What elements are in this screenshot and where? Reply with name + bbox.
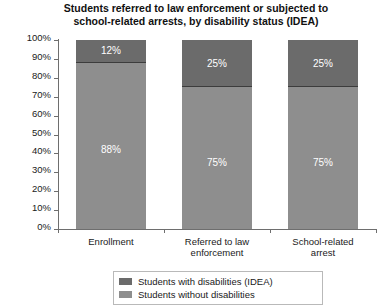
chart-title: Students referred to law enforcement or … (0, 2, 392, 28)
bar-segment-without-disabilities[interactable]: 88% (76, 63, 146, 229)
y-axis-tick-label: 50% (32, 128, 51, 138)
y-axis-tick-label: 60% (32, 109, 51, 119)
x-axis-category-label: School-relatedarrest (271, 236, 375, 258)
x-axis-line (58, 229, 376, 230)
x-axis-category-label-line: School-related (271, 236, 375, 247)
bar-stack[interactable]: 25%75% (182, 40, 252, 229)
x-axis-tick-mark (270, 229, 271, 233)
bar-segment-with-disabilities[interactable]: 25% (288, 40, 358, 87)
x-axis-tick-mark (376, 229, 377, 233)
x-axis-category-label-line: arrest (271, 247, 375, 258)
legend-item-label: Students with disabilities (IDEA) (138, 276, 273, 287)
chart-legend: Students with disabilities (IDEA)Student… (113, 271, 323, 305)
y-axis-tick-label: 100% (27, 33, 51, 43)
bar-segment-with-disabilities[interactable]: 25% (182, 40, 252, 87)
legend-item[interactable]: Students without disabilities (119, 288, 317, 301)
x-axis-category-label: Enrollment (59, 236, 163, 247)
y-axis-tick-label: 80% (32, 71, 51, 81)
bar-value-label: 75% (313, 157, 333, 168)
legend-color-swatch (119, 291, 132, 298)
legend-color-swatch (119, 278, 132, 285)
x-axis-category-label: Referred to lawenforcement (165, 236, 269, 258)
plot-area: 12%88%25%75%25%75% (58, 40, 376, 229)
y-axis-tick-label: 0% (37, 222, 51, 232)
x-axis-category-label-line: Referred to law (165, 236, 269, 247)
bar-stack[interactable]: 12%88% (76, 40, 146, 229)
bar-value-label: 25% (207, 58, 227, 69)
y-axis-tick-label: 90% (32, 52, 51, 62)
bar-value-label: 25% (313, 58, 333, 69)
y-axis-tick-label: 70% (32, 90, 51, 100)
bar-segment-without-disabilities[interactable]: 75% (182, 87, 252, 229)
x-axis-tick-mark (164, 229, 165, 233)
y-axis-tick-label: 10% (32, 203, 51, 213)
x-axis-category-label-line: Enrollment (59, 236, 163, 247)
bar-segment-with-disabilities[interactable]: 12% (76, 40, 146, 63)
y-axis-tick-label: 30% (32, 165, 51, 175)
x-axis-tick-mark (58, 229, 59, 233)
x-axis-category-label-line: enforcement (165, 247, 269, 258)
legend-item-label: Students without disabilities (138, 289, 255, 300)
legend-item[interactable]: Students with disabilities (IDEA) (119, 275, 317, 288)
y-axis-tick-label: 20% (32, 184, 51, 194)
bar-value-label: 12% (101, 45, 121, 56)
chart-title-line-2: school-related arrests, by disability st… (0, 15, 392, 28)
chart-title-line-1: Students referred to law enforcement or … (0, 2, 392, 15)
bar-segment-without-disabilities[interactable]: 75% (288, 87, 358, 229)
bar-value-label: 75% (207, 157, 227, 168)
bar-value-label: 88% (101, 144, 121, 155)
bar-stack[interactable]: 25%75% (288, 40, 358, 229)
y-axis-tick-label: 40% (32, 146, 51, 156)
